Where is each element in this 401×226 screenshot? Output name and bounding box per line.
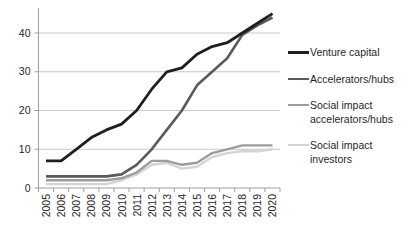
legend-line-swatch-social-impact-investors [288,144,309,146]
x-tick-label: 2015 [191,194,203,218]
x-tick-label: 2017 [221,194,233,218]
x-tick-label: 2013 [161,194,173,218]
x-tick-label: 2006 [55,194,67,218]
line-chart-figure: 0102030402005200620072008200920102011201… [0,0,401,226]
series-line-social-impact-investors [46,149,273,184]
legend-line-swatch-venture-capital [288,51,309,54]
legend-item-accelerators-hubs: Accelerators/hubs [288,73,401,87]
legend-label-accelerators-hubs: Accelerators/hubs [309,73,394,87]
x-tick-label: 2011 [131,194,143,217]
x-tick-label: 2019 [251,194,263,218]
legend-label-venture-capital: Venture capital [309,46,379,60]
x-tick-label: 2018 [236,194,248,218]
legend-item-social-impact-accelerators-hubs: Social impact accelerators/hubs [288,99,401,126]
chart-legend: Venture capital Accelerators/hubs Social… [288,46,401,179]
x-tick-label: 2008 [85,194,97,218]
legend-item-venture-capital: Venture capital [288,46,401,60]
legend-item-social-impact-investors: Social impact investors [288,139,401,166]
x-tick-label: 2007 [70,194,82,218]
y-tick-label: 10 [19,143,31,155]
x-tick-label: 2005 [40,194,52,218]
x-tick-label: 2010 [116,194,128,218]
legend-label-social-impact-accelerators-hubs: Social impact accelerators/hubs [309,99,401,126]
x-tick-label: 2014 [176,194,188,218]
legend-label-social-impact-investors: Social impact investors [309,139,401,166]
y-tick-label: 30 [19,65,31,77]
legend-line-swatch-social-impact-accelerators-hubs [288,104,309,106]
y-tick-label: 20 [19,104,31,116]
x-tick-label: 2009 [100,194,112,218]
legend-line-swatch-accelerators-hubs [288,78,309,81]
x-tick-label: 2016 [206,194,218,218]
x-tick-label: 2020 [266,194,278,218]
x-tick-label: 2012 [146,194,158,218]
y-tick-label: 40 [19,27,31,39]
y-tick-label: 0 [25,182,31,194]
